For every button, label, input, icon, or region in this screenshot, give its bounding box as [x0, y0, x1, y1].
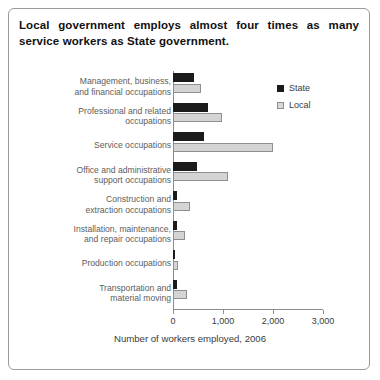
- bar-local: [173, 113, 222, 122]
- x-tick-label: 0: [170, 316, 175, 326]
- x-tick: [223, 310, 224, 314]
- category-label-line: and repair occupations: [35, 234, 171, 245]
- category-label-line: occupations: [35, 116, 171, 127]
- chart-title-line-2: service workers as State government.: [19, 33, 359, 49]
- chart-title: Local government employs almost four tim…: [19, 17, 359, 49]
- category-label: Installation, maintenance,and repair occ…: [35, 224, 171, 245]
- bar-state: [173, 280, 177, 289]
- plot-area: State Local Management, business,and fin…: [9, 67, 371, 317]
- bar-state: [173, 191, 177, 200]
- bar-local: [173, 84, 201, 93]
- category-label-line: Professional and related: [35, 106, 171, 117]
- category-label: Production occupations: [35, 258, 171, 269]
- legend-item-state: State: [277, 83, 311, 93]
- x-tick: [173, 310, 174, 314]
- x-tick-label: 2,000: [262, 316, 285, 326]
- chart-title-line-1: Local government employs almost four tim…: [19, 17, 359, 33]
- legend-label-state: State: [289, 83, 310, 93]
- x-tick: [273, 310, 274, 314]
- category-label-line: Installation, maintenance,: [35, 224, 171, 235]
- category-label: Construction andextraction occupations: [35, 194, 171, 215]
- bar-state: [173, 221, 177, 230]
- bar-state: [173, 162, 197, 171]
- category-label: Transportation andmaterial moving: [35, 283, 171, 304]
- category-label-line: Transportation and: [35, 283, 171, 294]
- x-tick-label: 1,000: [212, 316, 235, 326]
- legend-label-local: Local: [289, 100, 311, 110]
- x-axis-title: Number of workers employed, 2006: [9, 333, 371, 344]
- category-label-line: Production occupations: [35, 258, 171, 269]
- bar-local: [173, 261, 178, 270]
- bar-local: [173, 231, 185, 240]
- bar-local: [173, 202, 190, 211]
- bar-state: [173, 132, 204, 141]
- category-label-line: and financial occupations: [35, 87, 171, 98]
- category-label: Service occupations: [35, 140, 171, 151]
- x-tick-label: 3,000: [312, 316, 335, 326]
- category-label-line: support occupations: [35, 175, 171, 186]
- category-label: Management, business,and financial occup…: [35, 76, 171, 97]
- bar-state: [173, 73, 194, 82]
- bar-state: [173, 103, 208, 112]
- legend-swatch-local-icon: [277, 102, 284, 109]
- bar-local: [173, 290, 187, 299]
- category-label-line: Service occupations: [35, 140, 171, 151]
- category-label-line: Management, business,: [35, 76, 171, 87]
- bar-state: [173, 250, 175, 259]
- legend-swatch-state-icon: [277, 85, 284, 92]
- legend-item-local: Local: [277, 100, 311, 110]
- bar-local: [173, 172, 228, 181]
- x-axis-line: [173, 309, 323, 310]
- category-label: Professional and relatedoccupations: [35, 106, 171, 127]
- category-label-line: material moving: [35, 293, 171, 304]
- category-label-line: Construction and: [35, 194, 171, 205]
- category-label-line: Office and administrative: [35, 165, 171, 176]
- category-label: Office and administrativesupport occupat…: [35, 165, 171, 186]
- category-label-line: extraction occupations: [35, 205, 171, 216]
- bar-local: [173, 143, 273, 152]
- chart-figure: Local government employs almost four tim…: [8, 8, 370, 370]
- x-tick: [323, 310, 324, 314]
- chart-legend: State Local: [277, 83, 311, 117]
